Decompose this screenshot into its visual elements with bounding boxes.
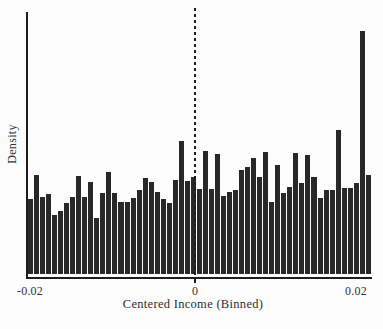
histogram-bar bbox=[215, 154, 220, 274]
histogram-bar bbox=[112, 193, 117, 274]
histogram-bar bbox=[197, 189, 202, 274]
histogram-bar bbox=[336, 130, 341, 274]
x-axis-line bbox=[26, 277, 372, 279]
histogram-bar bbox=[293, 153, 298, 274]
histogram-bar bbox=[100, 193, 105, 274]
histogram-bar bbox=[173, 180, 178, 274]
histogram-bar bbox=[311, 177, 316, 274]
density-histogram-figure: -0.02 0 0.02 Centered Income (Binned) De… bbox=[0, 0, 383, 329]
histogram-bar bbox=[155, 192, 160, 274]
histogram-bar bbox=[342, 188, 347, 274]
histogram-bar bbox=[360, 31, 365, 274]
histogram-bar bbox=[281, 193, 286, 274]
histogram-bar bbox=[366, 175, 371, 274]
histogram-bar bbox=[70, 197, 75, 274]
histogram-bar bbox=[269, 202, 274, 274]
histogram-bar bbox=[257, 177, 262, 274]
histogram-bar bbox=[203, 151, 208, 274]
histogram-bar bbox=[179, 141, 184, 274]
x-tick-label-positive: 0.02 bbox=[345, 284, 367, 299]
histogram-bar bbox=[299, 183, 304, 274]
histogram-bar bbox=[251, 158, 256, 274]
histogram-bar bbox=[125, 202, 130, 274]
histogram-bar bbox=[131, 198, 136, 274]
histogram-bar bbox=[287, 187, 292, 274]
histogram-bar bbox=[40, 197, 45, 274]
histogram-bar bbox=[348, 188, 353, 274]
histogram-bar bbox=[137, 190, 142, 274]
histogram-bar bbox=[239, 170, 244, 274]
histogram-bar bbox=[305, 155, 310, 274]
histogram-bar bbox=[149, 182, 154, 274]
histogram-bar bbox=[324, 190, 329, 274]
histogram-bar bbox=[34, 175, 39, 274]
histogram-bar bbox=[82, 197, 87, 274]
histogram-bar bbox=[94, 218, 99, 274]
histogram-bar bbox=[275, 165, 280, 274]
histogram-bars-container bbox=[28, 13, 371, 274]
zero-tick-mark bbox=[194, 279, 196, 283]
histogram-bar bbox=[28, 199, 33, 274]
histogram-bar bbox=[46, 194, 51, 274]
histogram-bar bbox=[64, 203, 69, 274]
histogram-bar bbox=[263, 152, 268, 274]
histogram-bar bbox=[245, 167, 250, 274]
histogram-bar bbox=[106, 172, 111, 274]
x-tick-label-negative: -0.02 bbox=[17, 284, 43, 299]
histogram-bar bbox=[88, 182, 93, 274]
histogram-bar bbox=[185, 181, 190, 274]
histogram-bar bbox=[143, 178, 148, 274]
histogram-bar bbox=[354, 183, 359, 274]
histogram-bar bbox=[233, 190, 238, 274]
histogram-bar bbox=[167, 203, 172, 274]
histogram-bar bbox=[209, 189, 214, 274]
histogram-bar bbox=[330, 190, 335, 274]
y-axis-title: Density bbox=[5, 124, 20, 163]
histogram-bar bbox=[52, 215, 57, 274]
histogram-bar bbox=[58, 211, 63, 274]
zero-reference-dashed-line bbox=[194, 8, 196, 278]
histogram-bar bbox=[221, 196, 226, 274]
histogram-bar bbox=[227, 192, 232, 274]
histogram-bar bbox=[161, 199, 166, 274]
histogram-bar bbox=[76, 176, 81, 274]
x-axis-title: Centered Income (Binned) bbox=[123, 297, 263, 312]
histogram-bar bbox=[118, 202, 123, 274]
histogram-bar bbox=[318, 198, 323, 274]
